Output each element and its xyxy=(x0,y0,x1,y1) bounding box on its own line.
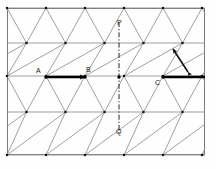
label-p: P xyxy=(117,19,122,26)
label-b: B xyxy=(86,66,91,73)
lattice-canvas xyxy=(0,0,216,169)
label-c: C xyxy=(155,79,160,86)
lattice-figure: A B C P Q xyxy=(0,0,216,169)
label-q: Q xyxy=(116,128,121,135)
label-a: A xyxy=(36,67,41,74)
vertex-c xyxy=(161,75,164,78)
double-headed-arrow xyxy=(173,49,188,72)
vertex-center xyxy=(117,75,120,78)
lattice-lines xyxy=(7,8,205,155)
vertex-b xyxy=(83,75,86,78)
vertex-a xyxy=(44,75,47,78)
